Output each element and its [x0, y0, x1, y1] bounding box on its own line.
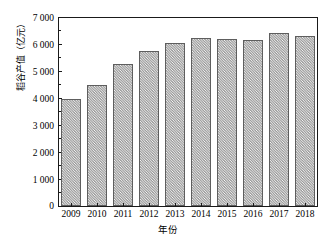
x-tick-label-2016: 2016 [240, 210, 266, 220]
x-tick-mark-2012 [149, 203, 150, 206]
y-minor-tick-4500 [59, 84, 61, 85]
y-tick-mark-6000 [59, 44, 62, 45]
bar-2016 [243, 40, 263, 206]
x-tick-mark-2015 [227, 203, 228, 206]
x-tick-label-2014: 2014 [188, 210, 214, 220]
x-tick-label-2015: 2015 [214, 210, 240, 220]
x-tick-mark-2016 [253, 203, 254, 206]
x-tick-mark-2018 [305, 203, 306, 206]
bar-2018 [295, 36, 315, 206]
bar-2014 [191, 38, 211, 206]
x-tick-label-2013: 2013 [162, 210, 188, 220]
x-axis-title: 年份 [0, 226, 336, 236]
y-tick-label-6000: 6 000 [10, 41, 54, 51]
x-tick-mark-2010 [97, 203, 98, 206]
y-tick-label-5000: 5 000 [10, 68, 54, 78]
x-tick-mark-2017 [279, 203, 280, 206]
y-tick-label-2000: 2 000 [10, 149, 54, 159]
x-tick-label-2012: 2012 [136, 210, 162, 220]
x-tick-mark-2011 [123, 203, 124, 206]
x-tick-label-2011: 2011 [110, 210, 136, 220]
bar-2013 [165, 43, 185, 206]
y-minor-tick-6500 [59, 30, 61, 31]
y-tick-label-3000: 3 000 [10, 122, 54, 132]
bar-2010 [87, 85, 107, 206]
y-tick-mark-7000 [59, 17, 62, 18]
x-tick-mark-2013 [175, 203, 176, 206]
y-tick-mark-0 [59, 206, 62, 207]
bar-chart: 稻谷产值（亿元） 7 000 6 000 5 000 4 000 3 000 2… [0, 0, 336, 241]
bar-2009 [61, 99, 81, 206]
x-tick-label-2009: 2009 [58, 210, 84, 220]
y-minor-tick-5500 [59, 57, 61, 58]
bar-2017 [269, 33, 289, 206]
bar-2011 [113, 64, 133, 206]
x-tick-label-2018: 2018 [292, 210, 318, 220]
x-tick-label-2010: 2010 [84, 210, 110, 220]
bar-2012 [139, 51, 159, 206]
x-tick-label-2017: 2017 [266, 210, 292, 220]
y-tick-label-1000: 1 000 [10, 176, 54, 186]
bar-2015 [217, 39, 237, 206]
y-tick-label-0: 0 [10, 202, 54, 212]
y-axis-tick-labels: 7 000 6 000 5 000 4 000 3 000 2 000 1 00… [10, 0, 54, 241]
x-tick-mark-2009 [71, 203, 72, 206]
y-tick-label-7000: 7 000 [10, 14, 54, 24]
x-tick-mark-2014 [201, 203, 202, 206]
y-tick-mark-5000 [59, 71, 62, 72]
y-tick-label-4000: 4 000 [10, 95, 54, 105]
